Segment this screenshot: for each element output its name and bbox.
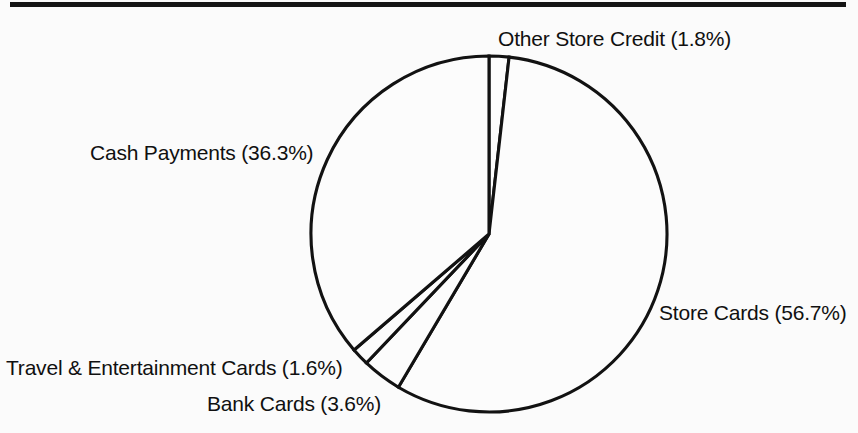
pie-chart-figure: Other Store Credit (1.8%) Cash Payments … [0,0,858,433]
pie-label-cash-payments: Cash Payments (36.3%) [90,140,313,165]
pie-label-store-cards: Store Cards (56.7%) [659,300,847,325]
pie-slice-group [311,56,667,412]
pie-label-bank-cards: Bank Cards (3.6%) [207,391,381,416]
pie-label-travel-and-entertainment-cards: Travel & Entertainment Cards (1.6%) [6,355,343,380]
pie-label-other-store-credit: Other Store Credit (1.8%) [498,26,731,51]
